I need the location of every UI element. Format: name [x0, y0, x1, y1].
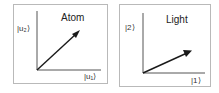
light-panel: |2⟩ Light |1⟩ [119, 4, 211, 87]
state-vector-arrow [143, 53, 187, 73]
atom-panel: |u₂⟩ Atom |u₁⟩ [13, 4, 108, 84]
y-axis-label: |2⟩ [125, 24, 135, 32]
x-axis-label: |u₁⟩ [84, 73, 96, 81]
y-axis-label: |u₂⟩ [17, 25, 30, 33]
panel-title: Light [166, 15, 188, 25]
x-axis-label: |1⟩ [191, 77, 201, 85]
state-vector-arrow [37, 34, 76, 70]
panel-title: Atom [61, 13, 84, 23]
